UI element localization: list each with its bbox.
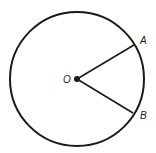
circle-diagram: O A B bbox=[0, 0, 156, 153]
center-point-dot bbox=[74, 76, 80, 82]
label-center-o: O bbox=[63, 75, 71, 85]
radius-oa bbox=[77, 45, 134, 79]
label-point-a: A bbox=[140, 36, 147, 46]
label-point-b: B bbox=[140, 111, 147, 121]
radius-ob bbox=[77, 79, 133, 113]
diagram-canvas bbox=[0, 0, 156, 153]
